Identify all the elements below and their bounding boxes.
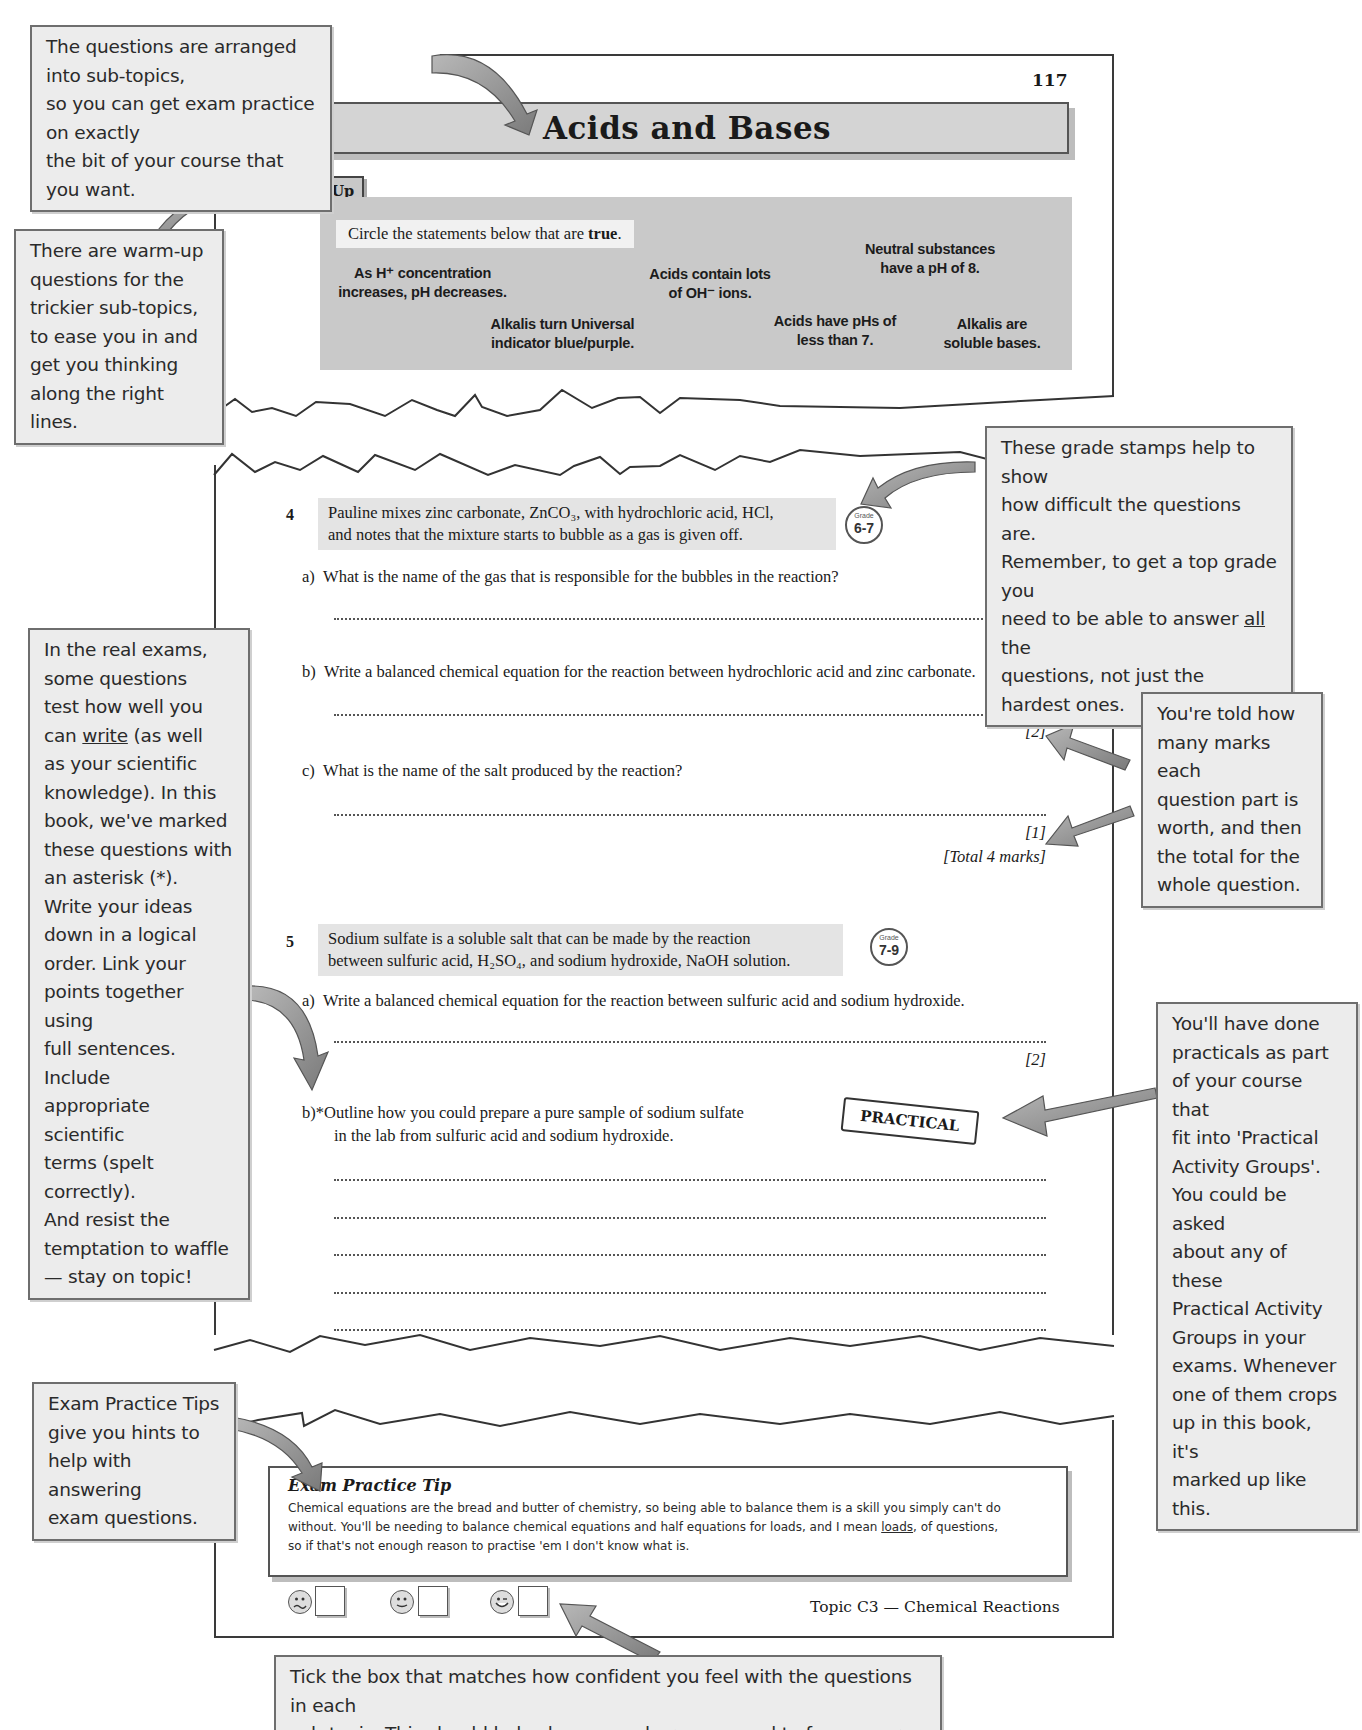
question-part: a) Write a balanced chemical equation fo…: [302, 990, 965, 1012]
page-border-right: [1112, 54, 1114, 396]
happy-face-icon: [490, 1590, 514, 1614]
question-stem: Pauline mixes zinc carbonate, ZnCO₃, wit…: [318, 498, 836, 550]
topic-footer: Topic C3 — Chemical Reactions: [810, 1598, 1060, 1616]
grade-stamp: Grade 6-7: [845, 506, 883, 544]
confidence-checkbox-medium[interactable]: [418, 1586, 448, 1616]
exam-practice-tip: Exam Practice Tip Chemical equations are…: [268, 1466, 1068, 1577]
page-border-right: [1112, 1420, 1114, 1638]
question-part: b) Write a balanced chemical equation fo…: [302, 661, 976, 683]
question-part-cont: in the lab from sulfuric acid and sodium…: [334, 1125, 674, 1147]
question-part: b)*Outline how you could prepare a pure …: [302, 1102, 744, 1124]
marks-label: [1]: [990, 823, 1046, 843]
question-number: 5: [286, 933, 294, 951]
callout-subtopics: The questions are arranged into sub-topi…: [30, 25, 332, 212]
callout-practical: You'll have done practicals as part of y…: [1156, 1002, 1358, 1531]
confidence-checkbox-low[interactable]: [315, 1586, 345, 1616]
warmup-statement[interactable]: Alkalis aresoluble bases.: [932, 315, 1052, 353]
answer-line[interactable]: [334, 618, 1046, 620]
question-number: 4: [286, 506, 294, 524]
answer-line[interactable]: [334, 1041, 1046, 1043]
warmup-statement[interactable]: Neutral substanceshave a pH of 8.: [850, 240, 1010, 278]
callout-marks: You're told how many marks each question…: [1141, 692, 1323, 908]
callout-warmup: There are warm-up questions for the tric…: [14, 229, 224, 445]
callout-grades: These grade stamps help to show how diff…: [985, 426, 1293, 727]
warmup-statement[interactable]: Acids contain lotsof OH⁻ ions.: [630, 265, 790, 303]
unhappy-face-icon: [288, 1590, 312, 1614]
confidence-checkbox-high[interactable]: [518, 1586, 548, 1616]
question-part: c) What is the name of the salt produced…: [302, 760, 682, 782]
answer-line[interactable]: [334, 1329, 1046, 1331]
callout-tick: Tick the box that matches how confident …: [274, 1655, 942, 1730]
warmup-statement[interactable]: Alkalis turn Universalindicator blue/pur…: [470, 315, 655, 353]
callout-tips: Exam Practice Tips give you hints to hel…: [32, 1382, 236, 1541]
page-border-bottom: [214, 1636, 1114, 1638]
answer-line[interactable]: [334, 1179, 1046, 1181]
question-part: a) What is the name of the gas that is r…: [302, 566, 839, 588]
page-number: 117: [1032, 70, 1068, 90]
neutral-face-icon: [390, 1590, 414, 1614]
marks-label: [2]: [990, 1050, 1046, 1070]
tip-title: Exam Practice Tip: [288, 1476, 1048, 1495]
question-stem: Sodium sulfate is a soluble salt that ca…: [318, 924, 843, 976]
page-fragment-questions: [214, 460, 1114, 1340]
answer-line[interactable]: [334, 814, 1046, 816]
tip-body: Chemical equations are the bread and but…: [288, 1499, 1048, 1556]
callout-writing: In the real exams, some questions test h…: [28, 628, 250, 1300]
page-title: Acids and Bases: [503, 110, 831, 146]
warmup-statement[interactable]: As H⁺ concentrationincreases, pH decreas…: [330, 264, 515, 302]
answer-line[interactable]: [334, 1254, 1046, 1256]
warmup-instruction: Circle the statements below that are tru…: [336, 220, 634, 248]
page-border-top: [440, 54, 1114, 56]
answer-line[interactable]: [334, 714, 1046, 716]
answer-line[interactable]: [334, 1217, 1046, 1219]
warmup-statement[interactable]: Acids have pHs ofless than 7.: [760, 312, 910, 350]
grade-stamp: Grade 7-9: [870, 928, 908, 966]
page-title-bar: Acids and Bases: [265, 102, 1069, 154]
answer-line[interactable]: [334, 1292, 1046, 1294]
total-marks: [Total 4 marks]: [880, 847, 1046, 867]
